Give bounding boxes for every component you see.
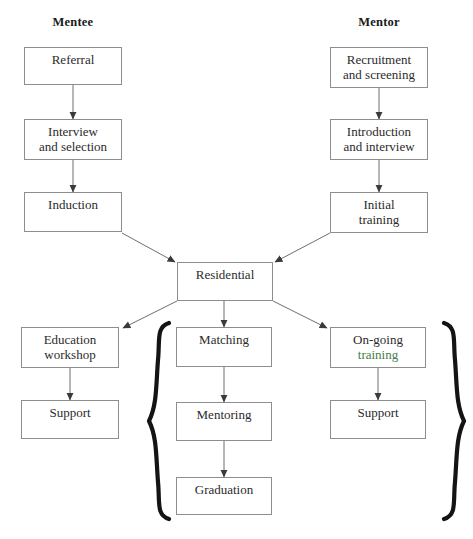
right-brace (444, 323, 464, 519)
brace-layer (0, 0, 473, 539)
flowchart-diagram: Mentee Mentor Referral Interview (0, 0, 473, 539)
left-brace (149, 323, 169, 519)
